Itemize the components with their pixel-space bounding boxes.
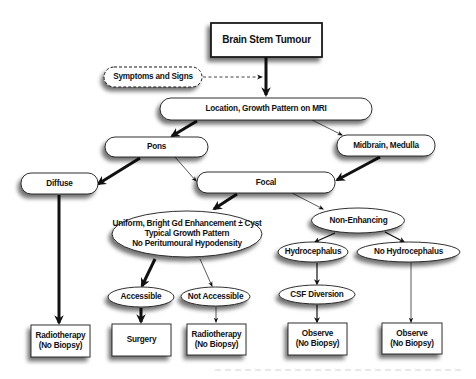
node-notaccessible-label: Not Accessible <box>181 287 250 306</box>
uniform-line-3: No Peritumoural Hypodensity <box>132 239 242 249</box>
radio1-line-1: Radiotherapy <box>36 331 86 341</box>
radio1-line-2: (No Biopsy) <box>39 341 83 351</box>
node-observe1-label: Observe (No Biopsy) <box>288 323 347 355</box>
node-symptoms-label: Symptoms and Signs <box>104 67 202 87</box>
edge-uniform-notaccessible <box>200 259 212 286</box>
edge-nonenhancing-nohydro <box>385 232 404 242</box>
node-diffuse-label: Diffuse <box>21 173 98 194</box>
edge-nonenhancing-hydro <box>315 233 335 242</box>
node-observe2-label: Observe (No Biopsy) <box>382 323 442 354</box>
observe2-line-2: (No Biopsy) <box>390 339 434 349</box>
uniform-line-2: Typical Growth Pattern <box>145 229 230 239</box>
edge-uniform-accessible <box>142 259 155 286</box>
node-surgery-label: Surgery <box>112 324 171 356</box>
scan-bleed-artifact <box>215 369 465 371</box>
edge-location-pons <box>172 121 197 136</box>
edge-focal-uniform <box>214 194 237 209</box>
radio2-line-1: Radiotherapy <box>192 330 242 340</box>
node-root-label: Brain Stem Tumour <box>211 23 322 57</box>
node-nonenhancing-label: Non-Enhancing <box>312 208 405 233</box>
node-radio2-label: Radiotherapy (No Biopsy) <box>187 324 246 355</box>
edge-pons-focal <box>175 157 196 181</box>
observe2-line-1: Observe <box>396 329 427 339</box>
node-location-label: Location, Growth Pattern on MRI <box>160 98 372 120</box>
node-uniform-label: Uniform, Bright Gd Enhancement ± Cyst Ty… <box>112 211 262 257</box>
edge-pons-diffuse <box>98 158 140 184</box>
radio2-line-2: (No Biopsy) <box>195 340 239 350</box>
observe1-line-1: Observe <box>302 329 333 339</box>
node-accessible-label: Accessible <box>108 287 174 307</box>
observe1-line-2: (No Biopsy) <box>296 339 340 349</box>
edge-location-midbrain <box>312 120 342 135</box>
uniform-line-1: Uniform, Bright Gd Enhancement ± Cyst <box>112 219 261 229</box>
node-radio1-label: Radiotherapy (No Biopsy) <box>31 325 90 357</box>
node-pons-label: Pons <box>105 137 208 157</box>
node-csf-label: CSF Diversion <box>279 285 355 304</box>
node-nohydro-label: No Hydrocephalus <box>357 242 460 262</box>
edge-focal-nonenhancing <box>292 193 323 209</box>
edge-midbrain-focal <box>337 157 380 180</box>
node-midbrain-label: Midbrain, Medulla <box>337 135 435 156</box>
node-focal-label: Focal <box>197 172 335 193</box>
node-hydro-label: Hydrocephalus <box>278 242 348 262</box>
